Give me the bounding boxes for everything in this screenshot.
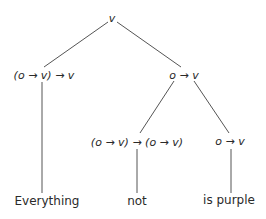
type-tree-diagram: v (o → v) → v o → v (o → v) → (o → v) o … bbox=[0, 0, 266, 219]
leaf-not: not bbox=[127, 194, 147, 208]
node-right-left: (o → v) → (o → v) bbox=[91, 136, 183, 149]
node-right: o → v bbox=[169, 69, 198, 82]
leaf-is-purple: is purple bbox=[203, 193, 255, 207]
node-right-right: o → v bbox=[215, 135, 244, 148]
node-left: (o → v) → v bbox=[14, 69, 75, 82]
node-root: v bbox=[109, 12, 116, 25]
tree-edges bbox=[0, 0, 266, 219]
leaf-everything: Everything bbox=[15, 194, 80, 208]
